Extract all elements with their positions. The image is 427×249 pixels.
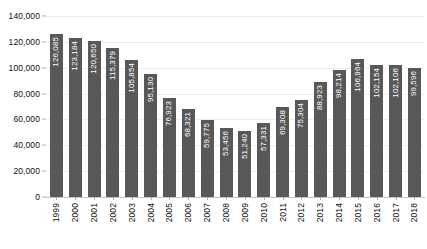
x-axis-tick-label: 2003 bbox=[128, 203, 137, 222]
x-axis-tick: 2011 bbox=[273, 197, 292, 249]
bar[interactable]: 120,650 bbox=[88, 41, 101, 197]
y-axis-tick-label: 80,000 bbox=[13, 89, 40, 98]
bar[interactable]: 102,106 bbox=[389, 65, 402, 197]
x-axis-tick-mark bbox=[320, 197, 321, 200]
x-axis: 1999200020012002200320042005200620072008… bbox=[46, 197, 425, 249]
x-axis-tick-mark bbox=[94, 197, 95, 200]
bar[interactable]: 95,130 bbox=[144, 74, 157, 197]
bar-slot: 88,923 bbox=[311, 16, 330, 197]
bar-value-label: 99,596 bbox=[410, 71, 418, 96]
bar[interactable]: 106,964 bbox=[351, 59, 364, 197]
x-axis-tick: 2000 bbox=[66, 197, 85, 249]
x-axis-tick-mark bbox=[207, 197, 208, 200]
y-axis: 020,00040,00060,00080,000100,000120,0001… bbox=[0, 0, 46, 249]
x-axis-tick: 2012 bbox=[292, 197, 311, 249]
bar-value-label: 106,964 bbox=[354, 62, 362, 92]
x-axis-tick: 2017 bbox=[386, 197, 405, 249]
x-axis-tick-mark bbox=[132, 197, 133, 200]
x-axis-tick: 2007 bbox=[198, 197, 217, 249]
x-axis-tick-mark bbox=[396, 197, 397, 200]
y-axis-tick-label: 40,000 bbox=[13, 141, 40, 150]
x-axis-tick: 2015 bbox=[349, 197, 368, 249]
bar[interactable]: 57,331 bbox=[257, 123, 270, 197]
y-axis-tick-label: 100,000 bbox=[9, 63, 40, 72]
x-axis-tick-label: 2017 bbox=[391, 203, 400, 222]
x-axis-tick: 1999 bbox=[47, 197, 66, 249]
x-axis-tick-mark bbox=[226, 197, 227, 200]
bar[interactable]: 68,321 bbox=[182, 109, 195, 197]
x-axis-tick: 2003 bbox=[122, 197, 141, 249]
bar[interactable]: 75,304 bbox=[295, 100, 308, 197]
x-axis-tick-mark bbox=[283, 197, 284, 200]
bar-series: 126,085123,184120,650115,379105,85495,13… bbox=[46, 16, 425, 197]
bar-value-label: 102,154 bbox=[373, 68, 381, 98]
x-axis-tick-label: 2007 bbox=[203, 203, 212, 222]
x-axis-tick-label: 2011 bbox=[278, 203, 287, 222]
x-axis-tick-mark bbox=[264, 197, 265, 200]
x-axis-tick-label: 2013 bbox=[316, 203, 325, 222]
bar-value-label: 120,650 bbox=[90, 44, 98, 74]
bar[interactable]: 115,379 bbox=[106, 48, 119, 197]
x-axis-tick-mark bbox=[75, 197, 76, 200]
bar[interactable]: 88,923 bbox=[314, 82, 327, 197]
x-axis-tick-mark bbox=[113, 197, 114, 200]
x-axis-tick-label: 2002 bbox=[109, 203, 118, 222]
x-axis-tick-label: 2016 bbox=[373, 203, 382, 222]
x-axis-tick: 2002 bbox=[104, 197, 123, 249]
bar[interactable]: 126,085 bbox=[50, 34, 63, 197]
bar[interactable]: 105,854 bbox=[125, 60, 138, 197]
x-axis-tick-label: 1999 bbox=[52, 203, 61, 222]
bar[interactable]: 59,775 bbox=[201, 120, 214, 197]
bar[interactable]: 51,240 bbox=[238, 131, 251, 197]
x-axis-tick-label: 2014 bbox=[335, 203, 344, 222]
bar-slot: 123,184 bbox=[66, 16, 85, 197]
bar[interactable]: 53,456 bbox=[220, 128, 233, 197]
x-axis-tick-label: 2004 bbox=[146, 203, 155, 222]
plot-area: 126,085123,184120,650115,379105,85495,13… bbox=[46, 16, 425, 197]
bar-slot: 102,154 bbox=[367, 16, 386, 197]
bar-slot: 102,106 bbox=[386, 16, 405, 197]
x-axis-tick: 2005 bbox=[160, 197, 179, 249]
bar-value-label: 102,106 bbox=[392, 68, 400, 98]
x-axis-tick: 2010 bbox=[254, 197, 273, 249]
bar-slot: 75,304 bbox=[292, 16, 311, 197]
bar-slot: 53,456 bbox=[217, 16, 236, 197]
x-axis-tick: 2018 bbox=[405, 197, 424, 249]
bar-slot: 120,650 bbox=[85, 16, 104, 197]
bar-value-label: 95,130 bbox=[147, 77, 155, 102]
bar-value-label: 126,085 bbox=[52, 37, 60, 67]
bar-value-label: 57,331 bbox=[260, 126, 268, 151]
x-axis-tick-label: 2018 bbox=[410, 203, 419, 222]
bar[interactable]: 76,923 bbox=[163, 98, 176, 197]
bar-value-label: 69,308 bbox=[279, 110, 287, 135]
x-axis-tick-label: 2012 bbox=[297, 203, 306, 222]
x-axis-tick-label: 2001 bbox=[90, 203, 99, 222]
x-axis-tick-mark bbox=[377, 197, 378, 200]
x-axis-tick: 2009 bbox=[235, 197, 254, 249]
y-axis-tick-label: 20,000 bbox=[13, 167, 40, 176]
bar[interactable]: 99,596 bbox=[408, 68, 421, 197]
x-axis-tick-label: 2009 bbox=[241, 203, 250, 222]
y-axis-tick-label: 140,000 bbox=[9, 12, 40, 21]
x-axis-tick: 2004 bbox=[141, 197, 160, 249]
bar-chart: 020,00040,00060,00080,000100,000120,0001… bbox=[0, 0, 427, 249]
x-axis-tick-label: 2010 bbox=[259, 203, 268, 222]
bar-value-label: 115,379 bbox=[109, 51, 117, 80]
x-axis-tick-mark bbox=[169, 197, 170, 200]
bar[interactable]: 98,214 bbox=[333, 70, 346, 197]
bar-value-label: 105,854 bbox=[128, 63, 136, 93]
bar[interactable]: 102,154 bbox=[370, 65, 383, 197]
bar[interactable]: 123,184 bbox=[69, 38, 82, 197]
x-axis-tick-mark bbox=[151, 197, 152, 200]
bar-value-label: 75,304 bbox=[297, 103, 305, 128]
x-axis-tick-mark bbox=[301, 197, 302, 200]
x-axis-tick: 2016 bbox=[367, 197, 386, 249]
y-axis-tick-label: 120,000 bbox=[9, 38, 40, 47]
bar[interactable]: 69,308 bbox=[276, 107, 289, 197]
bar-slot: 69,308 bbox=[273, 16, 292, 197]
x-axis-tick-label: 2000 bbox=[71, 203, 80, 222]
bar-slot: 98,214 bbox=[330, 16, 349, 197]
x-axis-tick: 2001 bbox=[85, 197, 104, 249]
x-axis-tick-label: 2015 bbox=[354, 203, 363, 222]
x-axis-tick-mark bbox=[358, 197, 359, 200]
